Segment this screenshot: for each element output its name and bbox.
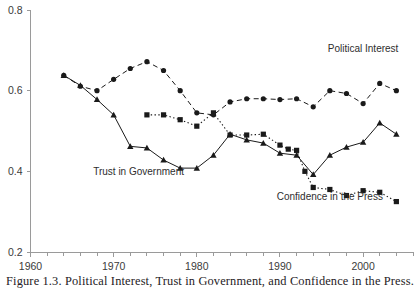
data-point-circle-marker: [277, 97, 282, 102]
data-point-circle-marker: [327, 88, 332, 93]
chart-plot-area: 0.20.40.60.819601970198019902000Politica…: [0, 0, 420, 272]
series-annotation-label: Confidence in the Press: [277, 191, 383, 202]
data-point-circle-marker: [394, 88, 399, 93]
x-tick-label: 1990: [268, 260, 292, 272]
y-tick-label: 0.2: [8, 246, 23, 258]
data-point-square-marker: [261, 132, 266, 137]
x-tick-label: 1960: [19, 260, 43, 272]
data-point-circle-marker: [244, 96, 249, 101]
data-point-square-marker: [311, 185, 316, 190]
data-point-circle-marker: [111, 77, 116, 82]
series-confidence-in-the-press: Confidence in the Press: [144, 110, 399, 204]
x-tick-label: 1970: [102, 260, 126, 272]
data-point-triangle-marker: [393, 131, 399, 137]
data-point-square-marker: [294, 148, 299, 153]
figure-container: 0.20.40.60.819601970198019902000Politica…: [0, 0, 420, 297]
x-tick-label: 1980: [185, 260, 209, 272]
data-point-square-marker: [144, 112, 149, 117]
data-point-triangle-marker: [377, 120, 383, 126]
data-point-circle-marker: [361, 101, 366, 106]
data-point-circle-marker: [178, 88, 183, 93]
data-point-square-marker: [194, 124, 199, 129]
data-point-circle-marker: [377, 81, 382, 86]
data-point-circle-marker: [128, 66, 133, 71]
data-point-circle-marker: [294, 96, 299, 101]
data-point-circle-marker: [311, 104, 316, 109]
data-point-circle-marker: [194, 110, 199, 115]
data-point-circle-marker: [144, 59, 149, 64]
x-tick-label: 2000: [351, 260, 375, 272]
series-line-2: [147, 113, 396, 202]
y-tick-label: 0.4: [8, 165, 23, 177]
y-tick-label: 0.8: [8, 4, 23, 16]
series-annotation-label: Trust in Government: [93, 166, 184, 177]
data-point-square-marker: [302, 169, 307, 174]
data-point-triangle-marker: [277, 150, 283, 156]
data-point-square-marker: [211, 110, 216, 115]
data-point-triangle-marker: [127, 143, 133, 149]
figure-caption: Figure 1.3. Political Interest, Trust in…: [0, 274, 420, 289]
data-point-square-marker: [227, 132, 232, 137]
data-point-triangle-marker: [160, 157, 166, 163]
data-point-square-marker: [244, 132, 249, 137]
data-point-circle-marker: [161, 68, 166, 73]
data-point-triangle-marker: [327, 152, 333, 158]
data-point-circle-marker: [94, 88, 99, 93]
series-trust-in-government: Trust in Government: [61, 72, 400, 177]
data-point-circle-marker: [227, 99, 232, 104]
y-tick-label: 0.6: [8, 84, 23, 96]
data-point-circle-marker: [344, 91, 349, 96]
series-line-0: [64, 62, 397, 115]
data-point-square-marker: [277, 143, 282, 148]
data-point-circle-marker: [261, 96, 266, 101]
series-line-1: [64, 75, 397, 174]
data-point-square-marker: [161, 112, 166, 117]
data-point-square-marker: [178, 117, 183, 122]
line-chart: 0.20.40.60.819601970198019902000Politica…: [0, 0, 420, 272]
data-point-square-marker: [286, 147, 291, 152]
data-point-square-marker: [394, 199, 399, 204]
series-political-interest: Political Interest: [61, 43, 399, 117]
series-annotation-label: Political Interest: [328, 43, 399, 54]
